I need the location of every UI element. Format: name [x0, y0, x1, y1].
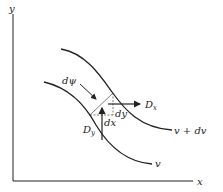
- dpsi-arrow: [80, 84, 96, 99]
- dpsi-label: dψ: [62, 75, 76, 86]
- curve-v-plus-dv-label: v + dv: [174, 125, 207, 136]
- Dy-label: Dy: [82, 124, 96, 137]
- Dx-label: Dx: [144, 99, 157, 112]
- curve-v-label: v: [155, 158, 161, 169]
- curve-v: [44, 82, 152, 164]
- x-axis-label: x: [197, 176, 203, 187]
- flow-net-diagram: y x v + dv v dψ Dx Dy dx dy: [0, 0, 223, 192]
- dy-label: dy: [115, 108, 127, 119]
- y-axis-label: y: [8, 3, 15, 14]
